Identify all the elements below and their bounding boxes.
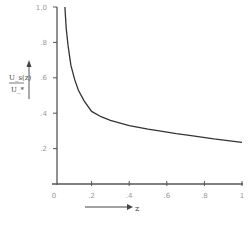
y-axis-label-numerator: U_s(z) <box>9 74 31 82</box>
x-tick-label: .8 <box>201 192 208 200</box>
arrow-right-icon <box>127 204 133 210</box>
x-axis-label: z <box>85 204 139 213</box>
axes <box>52 7 243 185</box>
y-tick-label: .6 <box>40 74 47 82</box>
x-tick-label: 1 <box>240 192 244 200</box>
y-tick-label: 1.0 <box>36 4 47 12</box>
data-line <box>65 7 242 142</box>
x-axis-label-text: z <box>135 204 139 213</box>
x-tick-label: .4 <box>126 192 133 200</box>
y-axis-label-denominator: U_* <box>11 86 24 94</box>
x-tick-label: .6 <box>163 192 170 200</box>
arrow-up-icon <box>27 60 32 67</box>
y-tick-label: .2 <box>40 145 47 153</box>
chart: 0.2.4.6.81.2.4.6.81.0 z U_s(z) U_* <box>0 0 251 225</box>
y-axis-label: U_s(z) U_* <box>9 60 32 99</box>
y-tick-label: .8 <box>40 39 47 47</box>
x-tick-label: .2 <box>88 192 95 200</box>
x-tick-label: 0 <box>52 192 56 200</box>
y-tick-label: .4 <box>40 110 47 118</box>
